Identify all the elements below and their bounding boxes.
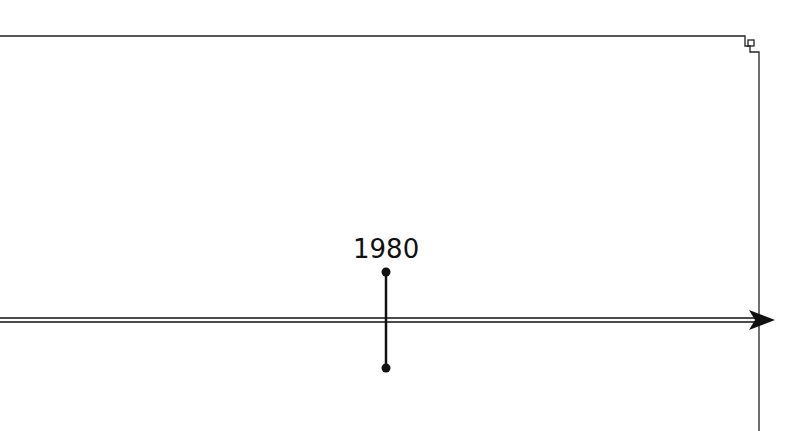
event-year-label: 1980 bbox=[353, 236, 419, 262]
frame-notch-square bbox=[748, 40, 754, 46]
marker-top-dot bbox=[382, 268, 391, 277]
event-marker-1980 bbox=[382, 268, 391, 373]
arrow-right-icon bbox=[749, 310, 775, 330]
marker-bottom-dot bbox=[382, 364, 391, 373]
timeline-diagram bbox=[0, 0, 809, 431]
timeline-axis bbox=[0, 310, 775, 330]
